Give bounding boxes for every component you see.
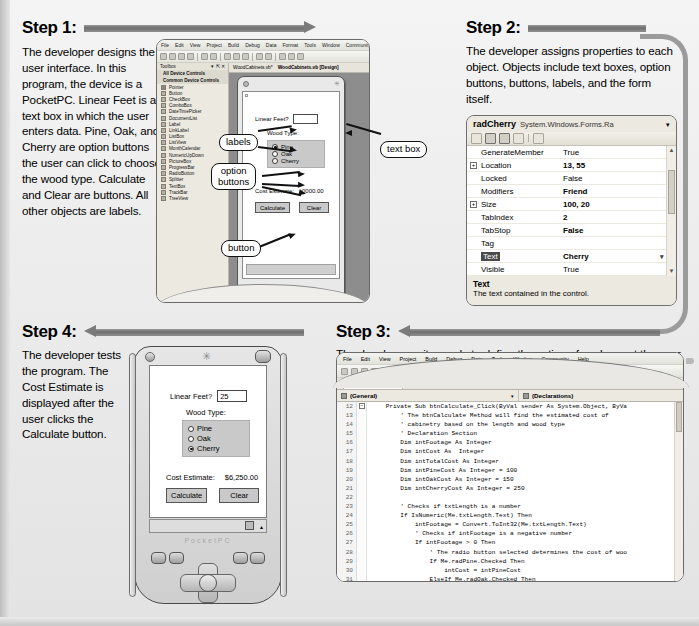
properties-toolbar[interactable] [467, 132, 676, 146]
property-value[interactable]: 100, 20 [561, 198, 676, 210]
property-value[interactable]: Friend [561, 185, 676, 197]
code-line[interactable]: 31 ElseIf Me.radOak.Checked Then [337, 575, 683, 582]
properties-dropdown-icon[interactable]: ▾ [666, 121, 670, 129]
ide1-toolbar[interactable] [157, 51, 369, 63]
code-navigation-bar[interactable]: (General) ▾ (Declarations) [337, 390, 683, 402]
code-line[interactable]: 19 Dim intPineCost As Integer = 100 [337, 466, 683, 475]
code-fold-margin[interactable] [357, 475, 367, 484]
events-view-icon[interactable] [513, 133, 524, 144]
scroll-down-icon[interactable]: ▼ [667, 267, 676, 276]
redo-icon[interactable] [265, 53, 272, 60]
menu-item-data[interactable]: Data [266, 42, 277, 48]
member-dropdown[interactable]: (Declarations) [519, 390, 577, 401]
radio-pine-icon[interactable] [188, 426, 194, 432]
code-line[interactable]: 20 Dim intOakCost As Integer = 150 [337, 475, 683, 484]
menu-item-project[interactable]: Project [206, 42, 222, 48]
start-debug-icon[interactable] [279, 53, 286, 60]
runtime-radio-oak[interactable]: Oak [188, 434, 244, 443]
code-fold-margin[interactable]: − [357, 402, 367, 411]
save-icon[interactable] [187, 53, 194, 60]
menu-item-file[interactable]: File [343, 356, 352, 362]
menu-item-community[interactable]: Community [346, 42, 370, 48]
property-row-tabindex[interactable]: TabIndex2 [467, 211, 676, 224]
runtime-linear-feet-textbox[interactable]: 25 [217, 390, 247, 402]
code-fold-margin[interactable] [357, 538, 367, 547]
properties-view-icon[interactable] [499, 133, 510, 144]
runtime-clear-button[interactable]: Clear [219, 488, 259, 503]
scrollbar-thumb[interactable] [676, 402, 682, 432]
code-line[interactable]: 25 intFootage = Convert.ToInt32(Me.txtLe… [337, 520, 683, 529]
print-icon[interactable] [210, 53, 217, 60]
property-row-locked[interactable]: LockedFalse [467, 172, 676, 185]
property-value[interactable]: Cherry▾ [561, 250, 676, 262]
code-fold-margin[interactable] [357, 429, 367, 438]
doc-tab-code[interactable]: WoodCabinets.vb* [233, 65, 273, 70]
doc-tab-design[interactable]: WoodCabinets.vb [Design] [278, 65, 339, 70]
code-fold-margin[interactable] [357, 411, 367, 420]
menu-item-view[interactable]: View [190, 42, 201, 48]
code-fold-margin[interactable] [357, 457, 367, 466]
code-fold-margin[interactable] [357, 557, 367, 566]
stop-icon[interactable] [297, 53, 304, 60]
code-line[interactable]: 23 ' Checks if txtLength is a number [337, 502, 683, 511]
code-fold-margin[interactable] [357, 420, 367, 429]
sip-chevron-icon[interactable]: ▴ [260, 523, 263, 530]
code-line[interactable]: 13 ' The btnCalculate Method will find t… [337, 411, 683, 420]
menu-item-build[interactable]: Build [228, 42, 239, 48]
dpad-center-button[interactable] [199, 574, 217, 592]
linear-feet-textbox[interactable] [293, 114, 318, 124]
code-editor[interactable]: 12− Private Sub btnCalculate_Click(ByVal… [337, 402, 683, 581]
dpad-navigation[interactable] [180, 563, 236, 603]
menu-item-format[interactable]: Format [282, 42, 298, 48]
open-file-icon[interactable] [178, 53, 185, 60]
menu-item-edit[interactable]: Edit [361, 356, 370, 362]
code-fold-margin[interactable] [357, 529, 367, 538]
save-all-icon[interactable] [201, 53, 208, 60]
code-line[interactable]: 14 ' cabinetry based on the length and w… [337, 420, 683, 429]
power-button[interactable] [255, 350, 271, 363]
code-fold-margin[interactable] [357, 438, 367, 447]
toolbox-group-common-device-controls[interactable]: Common Device Controls [157, 77, 228, 84]
code-line[interactable]: 28 ' The radio button selected determine… [337, 548, 683, 557]
record-button-icon[interactable] [250, 552, 265, 564]
property-value[interactable]: False [561, 224, 676, 236]
property-row-generatemember[interactable]: GenerateMemberTrue [467, 146, 676, 159]
radio-oak-icon[interactable] [272, 151, 278, 157]
property-pages-icon[interactable] [533, 133, 544, 144]
property-value[interactable]: 2 [561, 211, 676, 223]
paste-icon[interactable] [242, 53, 249, 60]
radio-cherry-icon[interactable] [272, 158, 278, 164]
code-fold-margin[interactable] [357, 493, 367, 502]
code-line[interactable]: 26 ' Checks if intFootage is a negative … [337, 529, 683, 538]
properties-grid[interactable]: GenerateMemberTrue+Location13, 55LockedF… [467, 146, 676, 276]
scroll-up-icon[interactable]: ▲ [667, 146, 676, 155]
alphabetical-sort-icon[interactable] [485, 133, 496, 144]
runtime-radio-cherry[interactable]: Cherry [188, 444, 244, 453]
property-value[interactable]: True [561, 263, 676, 275]
property-row-tag[interactable]: Tag [467, 237, 676, 250]
new-project-icon[interactable] [160, 53, 167, 60]
property-value[interactable]: 13, 55 [561, 159, 676, 171]
code-fold-margin[interactable] [357, 466, 367, 475]
chevron-down-icon[interactable]: ▾ [660, 250, 664, 263]
add-item-icon[interactable] [169, 53, 176, 60]
radio-oak-icon[interactable] [188, 436, 194, 442]
code-line[interactable]: 16 Dim intFootage As Integer [337, 438, 683, 447]
toolbox-item-treeview[interactable]: TreeView [157, 195, 228, 201]
property-row-text[interactable]: TextCherry▾ [467, 250, 676, 263]
expand-icon[interactable]: + [470, 162, 477, 169]
properties-scrollbar[interactable]: ▲ ▼ [666, 146, 676, 276]
radio-cherry[interactable]: Cherry [272, 158, 320, 164]
menu-item-project[interactable]: Project [400, 356, 417, 362]
code-fold-margin[interactable] [357, 520, 367, 529]
calculate-button[interactable]: Calculate [255, 202, 290, 213]
categorized-view-icon[interactable] [471, 133, 482, 144]
menu-item-window[interactable]: Window [322, 42, 340, 48]
code-fold-margin[interactable] [357, 566, 367, 575]
menu-item-view[interactable]: View [379, 356, 391, 362]
undo-icon[interactable] [256, 53, 263, 60]
code-line[interactable]: 22 [337, 493, 683, 502]
ide1-menubar[interactable]: File Edit View Project Build Debug Data … [157, 40, 369, 51]
copy-icon[interactable] [233, 53, 240, 60]
property-value[interactable] [561, 237, 676, 249]
